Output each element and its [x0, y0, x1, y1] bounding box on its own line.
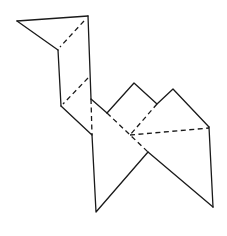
head-underside-edge: [17, 21, 58, 50]
head-top-edge: [17, 16, 88, 21]
origami-camel-diagram: [0, 0, 227, 236]
diagram-svg: [0, 0, 227, 236]
fold-lines: [60, 21, 209, 152]
rear-fold-fold-line: [130, 128, 209, 135]
neck-back-edge: [88, 16, 91, 99]
body-diagonal-fold-fold-line: [107, 113, 148, 152]
humps-edge: [107, 83, 209, 127]
neck-fold-fold-line: [63, 78, 88, 104]
hump-fold-fold-line: [130, 104, 157, 135]
solid-edges: [17, 16, 213, 212]
rear-leg-outer-edge: [209, 127, 213, 207]
front-leg-edge: [92, 135, 148, 212]
chest-edge: [61, 106, 92, 135]
neck-front-edge: [58, 50, 61, 106]
head-fold-fold-line: [60, 21, 84, 47]
back-to-hump-edge: [91, 99, 107, 113]
rear-leg-inner-edge: [148, 152, 213, 207]
body-vertical-fold-fold-line: [91, 99, 92, 135]
